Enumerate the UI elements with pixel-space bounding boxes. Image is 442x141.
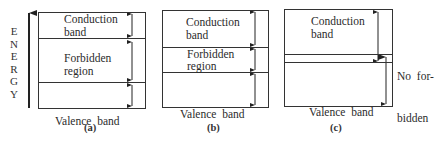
annotation-line: bidden: [397, 111, 434, 125]
panel-b-forbidden-region-label: Forbidden region: [187, 48, 234, 72]
panel-a-divider-bottom: [38, 82, 146, 83]
panel-b-divider-bottom: [162, 72, 269, 73]
band-label-line: band: [311, 28, 365, 41]
panel-a-forbidden-region-label: Forbidden region: [64, 52, 111, 78]
panel-b-caption: (b): [207, 122, 220, 133]
panel-c-caption: (c): [330, 122, 342, 133]
panel-c-conduction-band-label: Conduction band: [311, 15, 365, 41]
panel-a-valence-band-label: Valence band: [55, 89, 120, 141]
band-label-line: region: [64, 65, 111, 78]
band-label-line: Conduction: [186, 16, 240, 29]
band-label-line: Forbidden: [187, 48, 234, 60]
panel-b-conduction-band-label: Conduction band: [186, 16, 240, 42]
band-label-line: Forbidden: [64, 52, 111, 65]
band-label-line: region: [187, 60, 234, 72]
band-label-line: band: [64, 26, 118, 39]
band-label-line: Valence band: [309, 106, 374, 119]
panel-c-divider-bottom: [284, 62, 393, 63]
band-label-line: Valence band: [180, 108, 245, 121]
panel-a-caption: (a): [84, 122, 96, 133]
annotation-line: No for-: [397, 69, 434, 83]
band-label-line: band: [186, 29, 240, 42]
panel-c-no-forbidden-region-annotation: No for- bidden region: [397, 41, 434, 141]
band-label-line: Conduction: [311, 15, 365, 28]
panel-c-divider-top: [284, 54, 393, 55]
band-label-line: Conduction: [64, 13, 118, 26]
panel-a-conduction-band-label: Conduction band: [64, 13, 118, 39]
